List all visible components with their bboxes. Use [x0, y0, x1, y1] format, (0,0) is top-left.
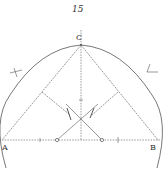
perp-right [92, 92, 118, 115]
geometric-construction [0, 0, 163, 169]
label-a: A [2, 143, 8, 152]
arc-mark-inner-left [67, 108, 71, 120]
apex-point [80, 44, 82, 46]
arc-mark-right [147, 64, 158, 72]
cross-line-2 [66, 104, 102, 140]
base-point-left [55, 138, 58, 141]
line-c-a [2, 45, 81, 140]
base-point-right [100, 138, 103, 141]
perp-left [42, 92, 70, 115]
label-b: B [150, 143, 156, 152]
label-c: C [76, 33, 82, 42]
arc-mark-left [10, 68, 22, 77]
